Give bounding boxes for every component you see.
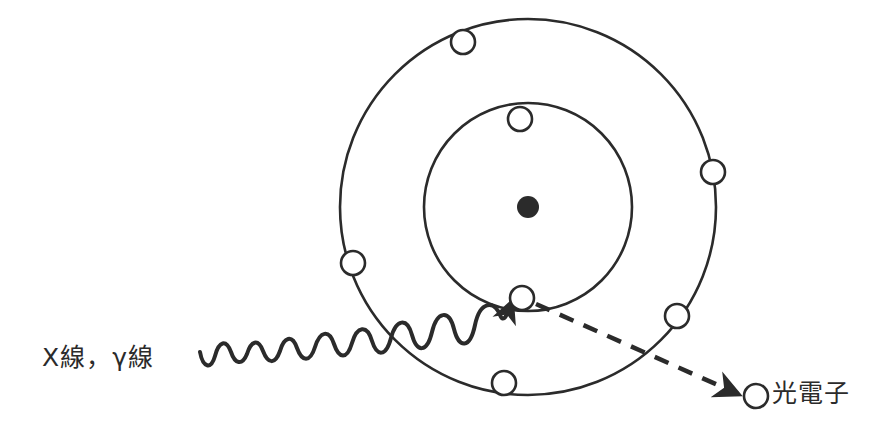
inner-electron-top bbox=[508, 107, 532, 131]
photoelectron-ejection-arrow bbox=[536, 304, 738, 394]
incident-radiation-label: X線，γ線 bbox=[42, 345, 154, 370]
outer-electron-right bbox=[701, 160, 725, 184]
outer-electron-top-left bbox=[451, 30, 475, 54]
incident-photon-wave bbox=[200, 302, 512, 365]
figure-canvas: X線，γ線 光電子 bbox=[0, 0, 896, 436]
outer-electron-left bbox=[341, 251, 365, 275]
outer-electron-bottom bbox=[492, 371, 516, 395]
outer-electron-lower-right bbox=[665, 304, 689, 328]
nucleus bbox=[517, 196, 539, 218]
ejected-photoelectron bbox=[744, 384, 768, 408]
inner-electron-struck bbox=[510, 286, 534, 310]
photoelectron-label: 光電子 bbox=[772, 381, 850, 406]
